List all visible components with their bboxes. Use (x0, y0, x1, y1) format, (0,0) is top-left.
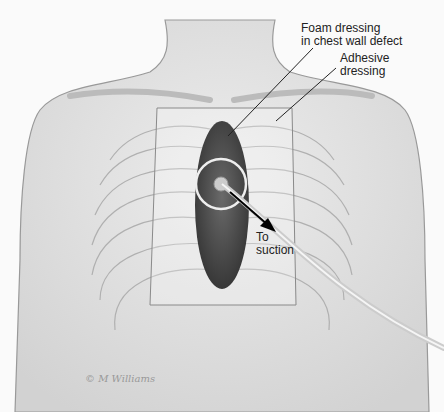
label-to-suction: To suction (256, 231, 294, 257)
foam-dressing (195, 121, 249, 289)
label-foam-dressing: Foam dressing in chest wall defect (301, 22, 402, 48)
artist-signature: © M Williams (85, 372, 155, 385)
figure: Foam dressing in chest wall defect Adhes… (0, 0, 444, 412)
label-adhesive-dressing: Adhesive dressing (340, 52, 389, 78)
